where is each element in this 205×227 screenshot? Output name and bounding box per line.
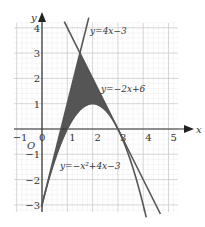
y-axis-arrow-icon: [38, 12, 46, 22]
x-axis-label: x: [196, 124, 202, 135]
label-line-1: y=4x−3: [89, 26, 127, 36]
y-tick--3: −3: [25, 200, 40, 211]
x-tick-0: 0: [39, 132, 45, 143]
y-tick-1: 1: [34, 99, 40, 110]
x-axis-arrow-icon: [184, 125, 194, 133]
function-graph: −1012345 4321−1−2−3 x y O y=4x−3 y=−2x+6…: [0, 0, 205, 227]
x-tick-5: 5: [171, 132, 177, 143]
label-parabola: y=−x²+4x−3: [59, 161, 121, 171]
x-tick-3: 3: [120, 132, 126, 143]
origin-label: O: [27, 140, 35, 151]
label-line-2: y=−2x+6: [100, 84, 146, 94]
x-tick-labels: −1012345: [13, 132, 177, 143]
y-tick--2: −2: [25, 175, 40, 186]
x-tick-2: 2: [95, 132, 101, 143]
x-tick--1: −1: [13, 132, 28, 143]
y-tick-2: 2: [34, 73, 40, 84]
y-tick-3: 3: [34, 48, 40, 59]
y-tick-labels: 4321−1−2−3: [25, 23, 40, 211]
y-axis-label: y: [30, 12, 37, 23]
y-tick-4: 4: [34, 23, 40, 34]
x-tick-1: 1: [69, 132, 75, 143]
x-tick-4: 4: [145, 132, 151, 143]
